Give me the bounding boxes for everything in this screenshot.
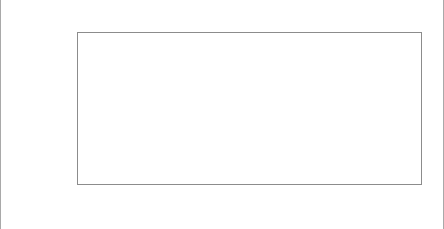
plot-area [77, 32, 422, 185]
data-line-baleen-whale-population [78, 33, 421, 184]
chart-figure [0, 0, 444, 229]
